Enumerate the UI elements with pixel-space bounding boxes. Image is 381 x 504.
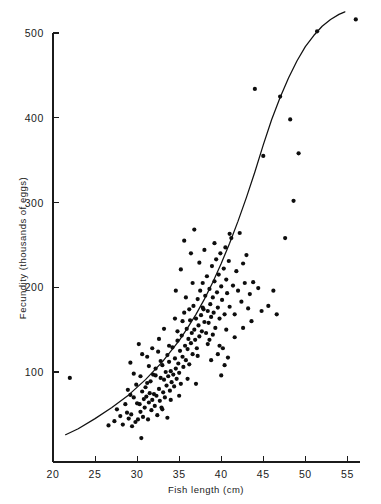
data-point [211, 333, 215, 337]
data-point [167, 360, 171, 364]
data-point [210, 264, 214, 268]
data-point [106, 423, 110, 427]
data-point [246, 306, 250, 310]
data-point [189, 341, 193, 345]
data-point [218, 251, 222, 255]
data-point [220, 298, 224, 302]
x-tick-label: 50 [299, 468, 312, 480]
data-point [206, 342, 210, 346]
data-point [205, 274, 209, 278]
data-point [193, 338, 197, 342]
fitted-curve [66, 12, 345, 435]
data-point [354, 17, 358, 21]
data-point [207, 338, 211, 342]
data-point [219, 284, 223, 288]
x-tick-labels: 2025303540455055 [47, 468, 354, 480]
data-point [261, 154, 265, 158]
data-point [161, 390, 165, 394]
data-point [234, 269, 238, 273]
data-point [224, 278, 228, 282]
data-point [275, 312, 279, 316]
data-point [123, 402, 127, 406]
data-point [155, 413, 159, 417]
data-point [238, 231, 242, 235]
data-point [160, 407, 164, 411]
data-point [185, 347, 189, 351]
data-point [171, 372, 175, 376]
data-point [192, 228, 196, 232]
data-point [177, 394, 181, 398]
data-point [141, 415, 145, 419]
data-point [175, 377, 179, 381]
data-point [198, 289, 202, 293]
data-point [204, 331, 208, 335]
data-point [153, 404, 157, 408]
data-point [143, 385, 147, 389]
data-point [283, 236, 287, 240]
data-point [209, 315, 213, 319]
scatter-plot-figure: 2025303540455055 100200300400500 Fish le… [0, 0, 381, 504]
data-point [125, 411, 129, 415]
data-point [214, 257, 218, 261]
data-point [137, 342, 141, 346]
data-point [191, 281, 195, 285]
data-point [121, 422, 125, 426]
data-point [248, 292, 252, 296]
data-point [249, 319, 253, 323]
data-point [222, 267, 226, 271]
data-point [178, 349, 182, 353]
y-tick-label: 100 [25, 366, 44, 378]
data-point [175, 329, 179, 333]
data-point [184, 295, 188, 299]
data-point [186, 337, 190, 341]
data-point [244, 253, 248, 257]
data-point [154, 373, 158, 377]
x-tick-label: 40 [215, 468, 228, 480]
y-tick-label: 400 [25, 112, 44, 124]
x-tick-label: 20 [47, 468, 60, 480]
data-point [179, 382, 183, 386]
x-tick-label: 45 [257, 468, 270, 480]
x-tick-label: 30 [131, 468, 144, 480]
data-point [135, 401, 139, 405]
data-point [241, 261, 245, 265]
data-point [136, 417, 140, 421]
data-point [213, 326, 217, 330]
data-point [222, 363, 226, 367]
tick-marks [53, 33, 347, 462]
data-point [128, 361, 132, 365]
data-point [197, 261, 201, 265]
data-point [201, 281, 205, 285]
data-point [187, 362, 191, 366]
data-point [199, 313, 203, 317]
data-point [146, 417, 150, 421]
data-point [166, 374, 170, 378]
data-point [162, 327, 166, 331]
data-point [191, 352, 195, 356]
data-point [196, 323, 200, 327]
data-point [228, 232, 232, 236]
data-point [167, 344, 171, 348]
data-point [243, 281, 247, 285]
data-point [115, 407, 119, 411]
data-point [169, 369, 173, 373]
data-point [208, 302, 212, 306]
data-point [194, 382, 198, 386]
data-point [227, 259, 231, 263]
data-point [169, 380, 173, 384]
y-tick-label: 500 [25, 27, 44, 39]
data-point [224, 328, 228, 332]
data-point [231, 283, 235, 287]
data-point [216, 305, 220, 309]
data-point [158, 399, 162, 403]
data-point [241, 326, 245, 330]
data-point [176, 361, 180, 365]
data-point [251, 280, 255, 284]
data-point [236, 289, 240, 293]
data-point [138, 410, 142, 414]
data-point [164, 370, 168, 374]
data-point [233, 312, 237, 316]
data-point [182, 311, 186, 315]
data-point [209, 358, 213, 362]
data-point [225, 291, 229, 295]
